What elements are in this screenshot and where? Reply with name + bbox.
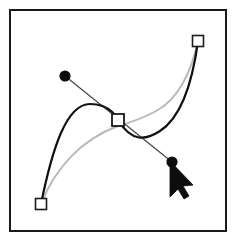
bezier-editor-illustration bbox=[0, 0, 236, 241]
control-point-in[interactable] bbox=[59, 70, 70, 81]
anchor-point-start[interactable] bbox=[36, 199, 47, 210]
anchor-point-middle[interactable] bbox=[112, 114, 124, 126]
illustration-canvas bbox=[0, 0, 236, 241]
anchor-point-end[interactable] bbox=[193, 36, 204, 47]
